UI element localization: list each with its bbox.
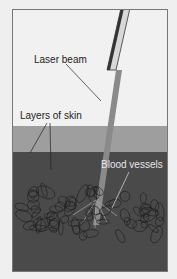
laser-skin-illustration [13, 10, 167, 271]
laser-beam-leader [66, 64, 101, 101]
laser-beam-label: Laser beam [34, 54, 87, 65]
upper-skin-layer [13, 126, 167, 152]
layers-of-skin-label: Layers of skin [20, 110, 82, 121]
blood-vessels-label: Blood vessels [101, 159, 163, 170]
diagram-frame: Laser beam Layers of skin Blood vessels [12, 9, 168, 272]
